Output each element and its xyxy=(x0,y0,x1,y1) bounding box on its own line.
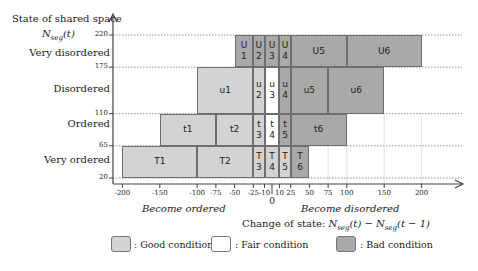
cell-label: u 2 xyxy=(256,79,262,101)
legend-swatch-fair xyxy=(211,236,231,252)
x-tick-label: 100 xyxy=(335,189,359,197)
cell-label: t2 xyxy=(230,124,239,135)
cell-label: T1 xyxy=(154,156,165,167)
cell-U2: U 2 xyxy=(253,35,264,67)
cell-t1: t1 xyxy=(160,114,216,146)
cell-u5: u5 xyxy=(291,67,328,113)
cell-u4: u 4 xyxy=(279,67,290,113)
cell-u1: u1 xyxy=(197,67,253,113)
cell-U5: U5 xyxy=(291,35,347,67)
x-tick-label: -150 xyxy=(148,189,172,197)
become-disordered-note: Become disordered xyxy=(301,203,399,214)
y-tick-label: 65 xyxy=(84,141,108,149)
y-axis-title: State of shared space xyxy=(12,13,122,24)
cell-u6: u6 xyxy=(328,67,384,113)
legend-label-fair: : Fair condition xyxy=(235,239,308,250)
cell-t6: t6 xyxy=(291,114,347,146)
legend-swatch-bad xyxy=(336,236,356,252)
cell-label: T 4 xyxy=(269,151,275,173)
cell-T6: T 6 xyxy=(291,146,310,178)
state-transition-diagram: State of shared space Nseg(t) Very disor… xyxy=(0,0,478,271)
cell-label: u1 xyxy=(220,85,231,96)
cell-t5: t 5 xyxy=(279,114,290,146)
cell-T3: T 3 xyxy=(253,146,264,178)
cell-T5: T 5 xyxy=(279,146,290,178)
x-tick-label: 0 xyxy=(260,196,284,206)
y-category-very-ordered: Very ordered xyxy=(0,154,110,165)
cell-U4: U 4 xyxy=(279,35,290,67)
cell-label: T2 xyxy=(220,156,231,167)
cell-U6: U6 xyxy=(347,35,422,67)
cell-label: U 4 xyxy=(282,40,289,62)
legend-label-good: : Good condition xyxy=(134,239,213,250)
cell-label: u 4 xyxy=(282,79,288,101)
cell-label: T 6 xyxy=(297,151,303,173)
cell-label: t6 xyxy=(314,124,323,135)
cell-label: u5 xyxy=(304,85,315,96)
y-tick-label: 110 xyxy=(84,109,108,117)
cell-label: U5 xyxy=(313,46,325,57)
cell-U1: U 1 xyxy=(235,35,254,67)
cell-label: t 3 xyxy=(256,119,262,141)
become-ordered-note: Become ordered xyxy=(142,203,226,214)
legend-swatch-good xyxy=(111,236,131,252)
y-tick-label: 175 xyxy=(84,62,108,70)
cell-label: U6 xyxy=(378,46,390,57)
x-axis-title: Change of state: Nseg(t) − Nseg(t − 1) xyxy=(242,218,430,232)
cell-label: u 3 xyxy=(269,79,275,101)
cell-t2: t2 xyxy=(216,114,253,146)
x-tick-label: 150 xyxy=(372,189,396,197)
cell-T2: T2 xyxy=(197,146,253,178)
y-category-very-disordered: Very disordered xyxy=(0,47,110,58)
x-tick-label: -200 xyxy=(110,189,134,197)
cell-label: t 5 xyxy=(282,119,288,141)
cell-label: U 3 xyxy=(269,40,276,62)
cell-U3: U 3 xyxy=(265,35,280,67)
cell-label: U 1 xyxy=(241,40,248,62)
cell-T4: T 4 xyxy=(265,146,280,178)
cell-t4: t 4 xyxy=(265,114,280,146)
cell-t3: t 3 xyxy=(253,114,264,146)
cell-u3: u 3 xyxy=(265,67,280,113)
y-tick-label: 220 xyxy=(84,30,108,38)
cell-label: U 2 xyxy=(256,40,263,62)
cell-label: u6 xyxy=(350,85,361,96)
cell-u2: u 2 xyxy=(253,67,264,113)
x-tick-label: 200 xyxy=(410,189,434,197)
cell-label: t1 xyxy=(183,124,192,135)
cell-label: T 3 xyxy=(256,151,262,173)
y-tick-label: 20 xyxy=(84,173,108,181)
cell-T1: T1 xyxy=(122,146,197,178)
y-axis-variable: Nseg(t) xyxy=(42,28,75,42)
y-category-ordered: Ordered xyxy=(0,118,110,129)
cell-label: t 4 xyxy=(269,119,275,141)
legend-label-bad: : Bad condition xyxy=(360,239,433,250)
cell-label: T 5 xyxy=(282,151,288,173)
y-category-disordered: Disordered xyxy=(0,83,110,94)
